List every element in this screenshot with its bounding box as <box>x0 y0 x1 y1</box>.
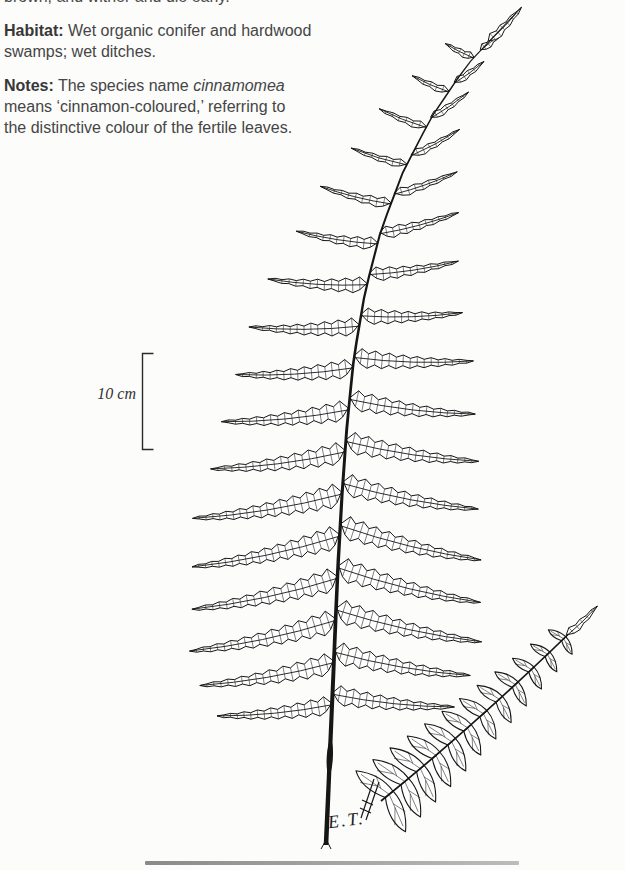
artist-signature: E.T. <box>327 808 366 833</box>
main-frond <box>190 7 522 849</box>
page: brown, and wither and die early. Habitat… <box>0 0 625 870</box>
scale-bar <box>143 354 154 450</box>
footer-bar <box>145 861 519 865</box>
scale-label: 10 cm <box>82 385 136 403</box>
fertile-pinna-detail <box>356 606 598 832</box>
fern-illustration <box>0 0 625 870</box>
